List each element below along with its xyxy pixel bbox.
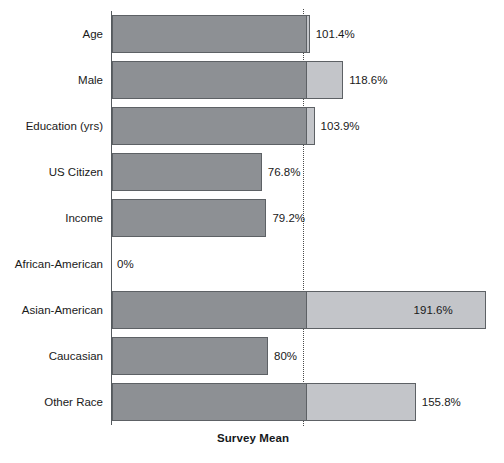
bar-segment-above-mean	[307, 15, 310, 53]
category-label: US Citizen	[0, 166, 103, 179]
bar-segment-below-mean	[112, 337, 268, 375]
bar	[112, 337, 268, 375]
bar-segment-below-mean	[112, 15, 307, 53]
bar-value-label: 191.6%	[414, 304, 453, 316]
bar	[112, 107, 315, 145]
bar-row: Other Race155.8%	[0, 379, 504, 425]
bar-segment-below-mean	[112, 153, 262, 191]
x-axis-title-label: Survey Mean	[217, 432, 289, 444]
bar-value-label: 79.2%	[272, 212, 305, 224]
plot-area: Age101.4%Male118.6%Education (yrs)103.9%…	[0, 0, 504, 463]
survey-mean-bar-chart: Age101.4%Male118.6%Education (yrs)103.9%…	[0, 0, 504, 463]
bar-row: African-American0%	[0, 241, 504, 287]
bar-segment-above-mean	[307, 107, 315, 145]
bar	[112, 153, 262, 191]
bar-value-label: 103.9%	[321, 120, 360, 132]
bar-segment-above-mean	[307, 383, 416, 421]
bar-row: Age101.4%	[0, 11, 504, 57]
bar-segment-below-mean	[112, 383, 307, 421]
bar-value-label: 76.8%	[268, 166, 301, 178]
category-label: Income	[0, 212, 103, 225]
bar-row: Male118.6%	[0, 57, 504, 103]
bar-value-label: 80%	[274, 350, 297, 362]
bar	[112, 383, 416, 421]
bar-value-label: 118.6%	[349, 74, 387, 86]
bar-value-label: 155.8%	[422, 396, 461, 408]
bar-value-label: 0%	[117, 258, 134, 270]
category-label: Asian-American	[0, 304, 103, 317]
bar-row: US Citizen76.8%	[0, 149, 504, 195]
category-label: Age	[0, 28, 103, 41]
bar	[112, 61, 343, 99]
category-label: Education (yrs)	[0, 120, 103, 133]
category-label: African-American	[0, 258, 103, 271]
category-label: Other Race	[0, 396, 103, 409]
bar-row: Income79.2%	[0, 195, 504, 241]
bar-row: Education (yrs)103.9%	[0, 103, 504, 149]
bar-segment-above-mean	[307, 291, 486, 329]
bar-segment-above-mean	[307, 61, 343, 99]
bar-segment-below-mean	[112, 199, 266, 237]
category-label: Male	[0, 74, 103, 87]
bar-row: Caucasian80%	[0, 333, 504, 379]
bar-segment-below-mean	[112, 61, 307, 99]
x-axis-title: Survey Mean	[0, 432, 504, 444]
bar-segment-below-mean	[112, 107, 307, 145]
bar	[112, 199, 266, 237]
bar-value-label: 101.4%	[316, 28, 355, 40]
bar-rows: Age101.4%Male118.6%Education (yrs)103.9%…	[0, 11, 504, 425]
bar-row: Asian-American191.6%	[0, 287, 504, 333]
category-label: Caucasian	[0, 350, 103, 363]
bar-segment-below-mean	[112, 291, 307, 329]
bar	[112, 15, 310, 53]
